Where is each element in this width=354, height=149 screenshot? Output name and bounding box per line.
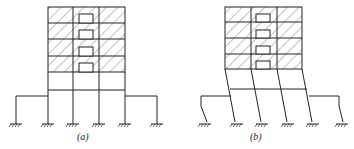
panel-b-label: (b) [250,131,262,142]
panel-a-label: (a) [77,131,89,142]
structural-diagram [0,0,354,149]
panel-b [198,7,348,127]
panel-a [9,7,163,127]
